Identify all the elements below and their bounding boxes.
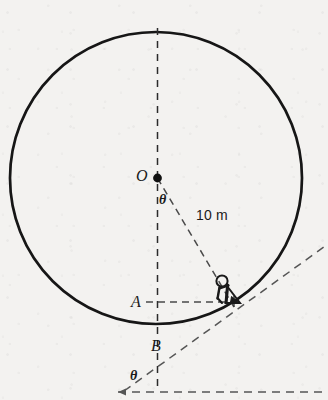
- label-theta-incline-angle: θ: [130, 369, 137, 383]
- stick-figure-icon: [216, 275, 240, 303]
- label-point-A: A: [131, 294, 141, 310]
- label-theta-center-angle: θ: [159, 193, 166, 207]
- label-radius-length: 10 m: [196, 208, 228, 222]
- label-center-O: O: [136, 168, 148, 184]
- incline-dashed-line: [124, 244, 328, 391]
- figure-canvas: O A B θ θ 10 m: [0, 0, 328, 400]
- label-point-B: B: [151, 338, 161, 354]
- center-point-dot: [153, 174, 162, 183]
